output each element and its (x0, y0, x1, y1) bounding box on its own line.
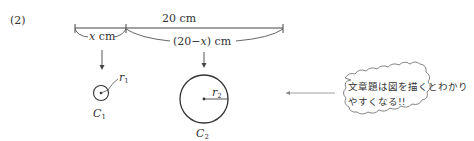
callout-line-1: 文章題は図を描くとわかり (348, 81, 468, 92)
total-length-label: 20 cm (162, 12, 197, 25)
right-segment-label: (20−x) cm (173, 35, 232, 48)
right-brace-b (236, 29, 283, 41)
circle-c1-radius-label: r1 (119, 71, 129, 85)
arrow-down-icon (100, 50, 105, 70)
circle-c1-name: C1 (93, 107, 106, 121)
arrow-down-icon (202, 52, 207, 68)
circle-c2-name: C2 (196, 127, 209, 141)
left-brace-b (114, 29, 126, 37)
callout-line-2: やすくなる!! (348, 96, 406, 107)
circle-c1 (94, 79, 119, 101)
problem-number: (2) (10, 14, 26, 27)
arrow-left-icon (286, 91, 335, 95)
left-segment-label: x cm (89, 30, 116, 43)
diagram: (2) 20 cm x cm (20−x) cm r1 C1 (0, 0, 474, 141)
right-brace-a (126, 29, 170, 41)
left-brace-a (75, 29, 88, 37)
circle-c2-radius-label: r2 (212, 86, 222, 100)
